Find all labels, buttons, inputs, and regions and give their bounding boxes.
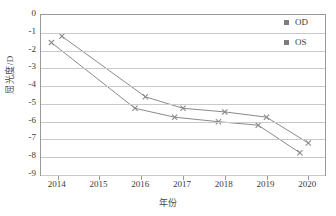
x-tick-label: 2014 bbox=[37, 179, 77, 189]
y-tick-label: -1 bbox=[12, 27, 36, 36]
series-line-od bbox=[62, 36, 308, 143]
x-axis-tick-labels: 2014201520162017201820192020 bbox=[40, 179, 326, 193]
legend-item-os[interactable]: OS bbox=[270, 32, 332, 52]
gridline bbox=[41, 139, 325, 140]
chart-container: 屈光度/D 0-1-2-3-4-5-6-7-8-9 20142015201620… bbox=[0, 0, 336, 216]
x-tick-label: 2017 bbox=[162, 179, 202, 189]
gridline bbox=[41, 157, 325, 158]
y-tick-label: -2 bbox=[12, 45, 36, 54]
y-tick-label: -9 bbox=[12, 169, 36, 178]
data-point-marker bbox=[306, 140, 311, 145]
data-point-marker bbox=[49, 40, 54, 45]
legend-label: OS bbox=[295, 38, 307, 47]
x-tick-label: 2019 bbox=[246, 179, 286, 189]
data-point-marker bbox=[143, 94, 148, 99]
x-axis-label: 年份 bbox=[0, 196, 336, 209]
gridline bbox=[41, 104, 325, 105]
y-tick-label: -6 bbox=[12, 116, 36, 125]
y-tick-label: -7 bbox=[12, 133, 36, 142]
series-line-os bbox=[51, 43, 300, 153]
y-tick-label: -3 bbox=[12, 62, 36, 71]
gridline bbox=[41, 86, 325, 87]
legend-label: OD bbox=[295, 18, 308, 27]
gridline bbox=[41, 68, 325, 69]
legend-item-od[interactable]: OD bbox=[270, 12, 332, 32]
x-tick-label: 2018 bbox=[204, 179, 244, 189]
legend-marker-icon bbox=[284, 20, 289, 25]
x-tick-label: 2020 bbox=[287, 179, 327, 189]
data-point-marker bbox=[59, 34, 64, 39]
y-tick-label: -5 bbox=[12, 98, 36, 107]
legend: ODOS bbox=[270, 12, 332, 52]
y-tick-label: -4 bbox=[12, 80, 36, 89]
legend-marker-icon bbox=[284, 40, 289, 45]
data-point-marker bbox=[297, 150, 302, 155]
x-tick-label: 2016 bbox=[120, 179, 160, 189]
gridline bbox=[41, 122, 325, 123]
x-tick-label: 2015 bbox=[78, 179, 118, 189]
y-tick-label: -8 bbox=[12, 151, 36, 160]
y-tick-label: 0 bbox=[12, 9, 36, 18]
